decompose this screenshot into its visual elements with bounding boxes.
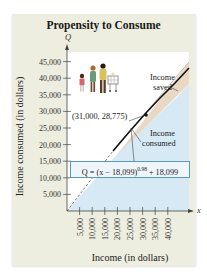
svg-text:20,000: 20,000 xyxy=(113,218,122,240)
svg-text:30,000: 30,000 xyxy=(139,218,148,240)
x-axis-arrow-icon xyxy=(188,209,194,213)
x-tick-labels: 5,000 10,000 15,000 20,000 25,000 30,000… xyxy=(76,218,173,240)
income-saved-label-line1: Income xyxy=(150,73,175,82)
svg-text:40,000: 40,000 xyxy=(164,218,173,240)
equation-suffix: + 18,099 xyxy=(147,168,178,177)
point-label: (31,000, 28,775) xyxy=(72,112,128,121)
y-tick-labels: 5,000 10,000 15,000 20,000 25,000 30,000… xyxy=(39,58,61,200)
svg-text:35,000: 35,000 xyxy=(151,218,160,240)
y-axis-letter: Q xyxy=(65,32,71,42)
chart-plot: 5,000 10,000 15,000 20,000 25,000 30,000… xyxy=(0,0,207,279)
y-axis-arrow-icon xyxy=(65,44,69,50)
income-consumed-label-line1: Income xyxy=(150,129,175,138)
income-consumed-label-line2: consumed xyxy=(142,139,176,148)
svg-text:40,000: 40,000 xyxy=(39,74,61,83)
equation-exponent: 0.98 xyxy=(137,166,147,172)
x-axis-label: Income (in dollars) xyxy=(60,252,200,263)
svg-text:5,000: 5,000 xyxy=(76,218,85,236)
equation-box: Q = (x − 18,099)0.98 + 18,099 xyxy=(70,161,190,178)
svg-text:15,000: 15,000 xyxy=(101,218,110,240)
svg-text:25,000: 25,000 xyxy=(126,218,135,240)
income-saved-label-line2: saved xyxy=(153,83,173,92)
equation-prefix: Q = (x − 18,099) xyxy=(82,168,137,177)
svg-text:35,000: 35,000 xyxy=(39,91,61,100)
svg-text:10,000: 10,000 xyxy=(39,174,61,183)
svg-text:15,000: 15,000 xyxy=(39,157,61,166)
y-axis-label: Income consumed (in dollars) xyxy=(14,72,25,202)
svg-text:10,000: 10,000 xyxy=(88,218,97,240)
svg-text:30,000: 30,000 xyxy=(39,107,61,116)
x-axis-letter: x xyxy=(197,205,201,215)
svg-text:20,000: 20,000 xyxy=(39,141,61,150)
svg-text:25,000: 25,000 xyxy=(39,124,61,133)
svg-text:5,000: 5,000 xyxy=(43,190,61,199)
svg-text:45,000: 45,000 xyxy=(39,58,61,67)
